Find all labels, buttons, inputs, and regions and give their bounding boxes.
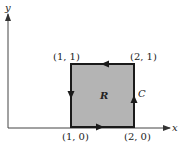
curve-label: C [138,88,146,99]
vertex-label-bottom-right: (2, 0) [124,131,151,142]
y-axis-label: y [4,2,11,13]
vertex-label-top-left: (1, 1) [53,51,80,62]
vertex-label-top-right: (2, 1) [130,51,157,62]
vertex-label-bottom-left: (1, 0) [62,131,89,142]
region-label: R [99,90,108,101]
x-axis-label: x [172,122,178,133]
green-theorem-diagram: y x R C (1, 1) (2, 1) (1, 0) (2, 0) [0,0,182,145]
